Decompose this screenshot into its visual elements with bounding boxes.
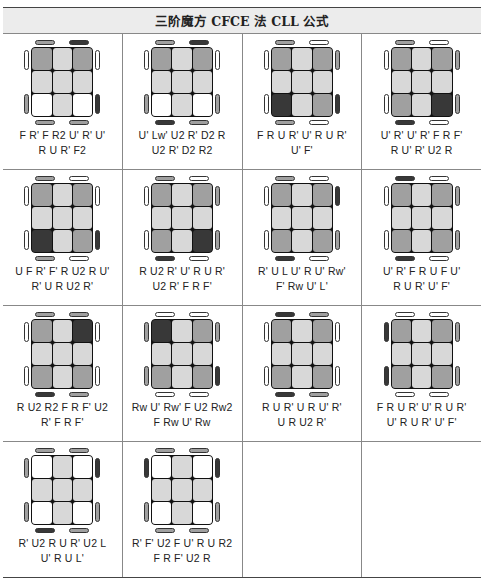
sticker (73, 502, 92, 524)
sticker (32, 94, 51, 116)
side-sticker (144, 458, 149, 478)
case-cell: Rw U' Rw' F U2 Rw2F Rw U' Rw (123, 306, 243, 441)
sticker (313, 184, 332, 206)
cube-diagram (383, 176, 461, 262)
side-sticker (275, 176, 295, 181)
algorithm-text: U F R' F' R U2 R U'R' U R U2 R' (15, 264, 109, 294)
algorithm-line-1: R U2 R2 F R F' U2 (17, 400, 108, 415)
side-sticker (395, 40, 415, 45)
sticker (392, 366, 411, 388)
sticker (193, 320, 212, 342)
case-cell: F R U R' U' R U R'U' F' (243, 34, 363, 169)
algorithm-line-1: R U R' U R U' R' (262, 400, 342, 415)
side-sticker (264, 94, 269, 114)
sticker (53, 502, 72, 524)
sticker (53, 94, 72, 116)
sticker (272, 71, 291, 93)
sticker (53, 343, 72, 365)
cube-diagram (263, 176, 341, 262)
sticker (32, 184, 51, 206)
side-sticker (395, 256, 415, 261)
algorithm-line-2: U2 R' F R F' (139, 279, 225, 294)
side-sticker (275, 312, 295, 317)
side-sticker (429, 120, 449, 125)
side-sticker (309, 312, 329, 317)
side-sticker (35, 448, 55, 453)
sticker (432, 230, 451, 252)
algorithm-line-2: R U' R' U2 R (381, 143, 463, 158)
side-sticker (155, 392, 175, 397)
sticker (292, 48, 311, 70)
sticker (392, 48, 411, 70)
side-sticker (384, 322, 389, 342)
sticker (193, 502, 212, 524)
side-sticker (215, 322, 220, 342)
cll-formula-table: 三阶魔方 CFCE 法 CLL 公式 F R' F R2 U' R' U'R U… (3, 7, 481, 578)
sticker (292, 230, 311, 252)
sticker (432, 94, 451, 116)
table-title: 三阶魔方 CFCE 法 CLL 公式 (3, 8, 481, 34)
sticker (292, 184, 311, 206)
side-sticker (309, 256, 329, 261)
side-sticker (69, 120, 89, 125)
sticker (53, 184, 72, 206)
side-sticker (155, 40, 175, 45)
case-cell: R' U2 R U R' U2 LU' R U L' (3, 442, 123, 577)
cube-diagram (143, 312, 221, 398)
side-sticker (335, 366, 340, 386)
algorithm-text: R U2 R2 F R F' U2R' F R F' (17, 400, 108, 430)
sticker (412, 320, 431, 342)
algorithm-line-2: U' R U R' U' F' (377, 415, 467, 430)
algorithm-line-2: R U R' U' F' (383, 279, 460, 294)
sticker (272, 230, 291, 252)
side-sticker (144, 502, 149, 522)
sticker (193, 94, 212, 116)
algorithm-line-2: F' Rw U' L' (258, 279, 346, 294)
sticker (272, 48, 291, 70)
sticker (432, 48, 451, 70)
sticker (292, 94, 311, 116)
side-sticker (455, 322, 460, 342)
side-sticker (264, 186, 269, 206)
sticker (313, 343, 332, 365)
sticker (152, 184, 171, 206)
sticker (172, 71, 191, 93)
sticker (73, 230, 92, 252)
side-sticker (24, 458, 29, 478)
side-sticker (384, 50, 389, 70)
algorithm-line-2: U' F' (257, 143, 347, 158)
sticker (32, 320, 51, 342)
sticker (152, 366, 171, 388)
cube-diagram (23, 40, 101, 126)
sticker (272, 94, 291, 116)
side-sticker (309, 392, 329, 397)
sticker (73, 366, 92, 388)
side-sticker (215, 186, 220, 206)
cube-diagram (23, 448, 101, 534)
sticker (193, 479, 212, 501)
sticker (292, 207, 311, 229)
sticker (272, 184, 291, 206)
algorithm-text: R' U2 R U R' U2 LU' R U L' (18, 536, 106, 566)
sticker (272, 343, 291, 365)
side-sticker (189, 312, 209, 317)
sticker (392, 343, 411, 365)
side-sticker (155, 256, 175, 261)
side-sticker (384, 366, 389, 386)
sticker (73, 71, 92, 93)
cube-diagram (263, 40, 341, 126)
sticker (172, 94, 191, 116)
side-sticker (69, 448, 89, 453)
sticker (313, 48, 332, 70)
top-face (31, 455, 93, 525)
side-sticker (215, 230, 220, 250)
side-sticker (24, 502, 29, 522)
top-face (151, 455, 213, 525)
sticker (412, 94, 431, 116)
sticker (172, 456, 191, 478)
top-face (271, 183, 333, 253)
sticker (193, 456, 212, 478)
case-cell: U' R' U' R' F R F'R U' R' U2 R (362, 34, 481, 169)
side-sticker (144, 366, 149, 386)
side-sticker (95, 366, 100, 386)
